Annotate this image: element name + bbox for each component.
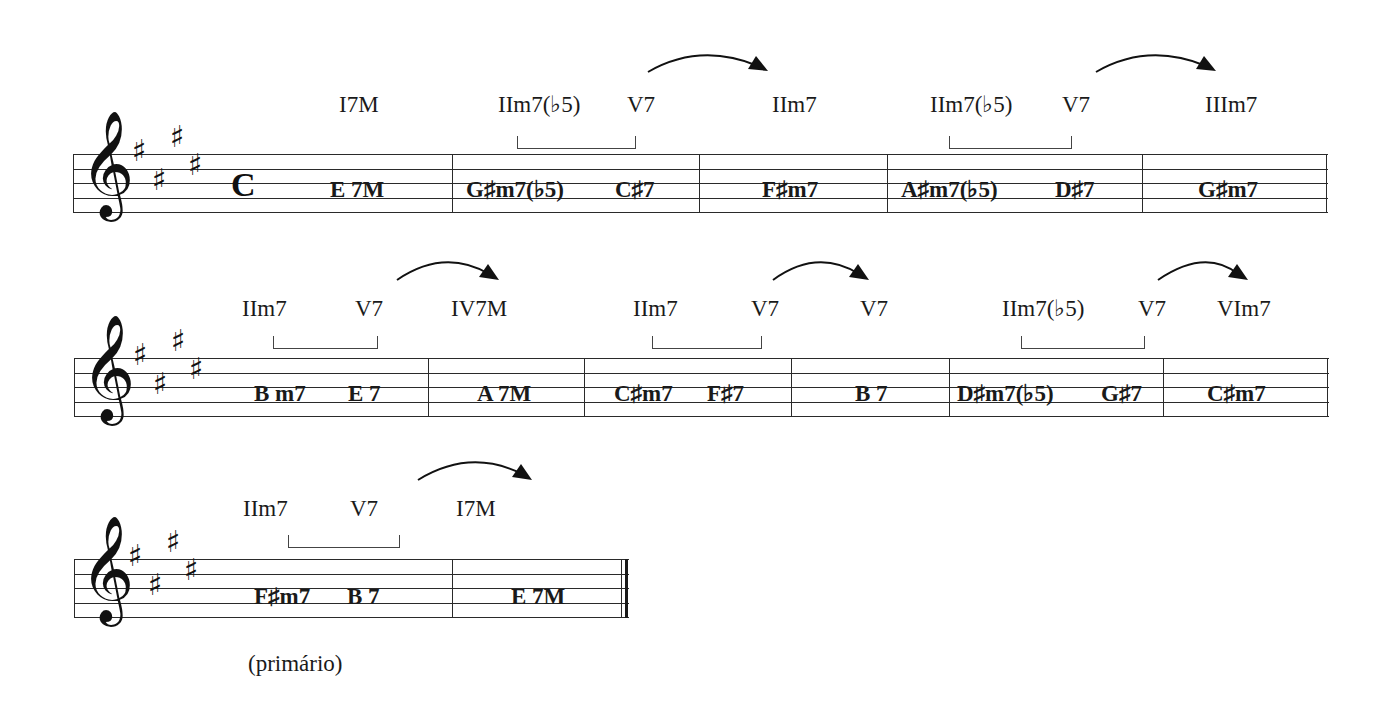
roman-numeral: IIIm7 bbox=[1205, 93, 1257, 116]
staff-line bbox=[74, 416, 1329, 417]
ii-v-bracket bbox=[652, 336, 762, 349]
roman-numeral: IIm7 bbox=[242, 297, 287, 320]
barline bbox=[74, 358, 75, 417]
roman-numeral: IIm7 bbox=[243, 497, 288, 520]
sharp-icon: ♯ bbox=[166, 527, 181, 557]
barline bbox=[73, 154, 74, 213]
chord-symbol: D♯m7(♭5) bbox=[957, 382, 1054, 405]
roman-numeral: IIm7(♭5) bbox=[1002, 297, 1085, 320]
barline bbox=[428, 358, 429, 417]
chord-symbol: A 7M bbox=[477, 382, 531, 405]
roman-numeral: V7 bbox=[1138, 297, 1166, 320]
roman-numeral: V7 bbox=[1062, 93, 1090, 116]
treble-clef-icon: 𝄞 bbox=[80, 118, 134, 210]
chord-symbol: C♯7 bbox=[615, 178, 655, 201]
resolution-arrow-icon bbox=[389, 252, 509, 286]
staff-1 bbox=[73, 154, 1328, 213]
staff-line bbox=[73, 183, 1328, 184]
roman-numeral: V7 bbox=[751, 297, 779, 320]
chord-symbol: D♯7 bbox=[1055, 178, 1095, 201]
sharp-icon: ♯ bbox=[171, 326, 186, 356]
final-barline-thin bbox=[621, 559, 622, 618]
barline bbox=[584, 358, 585, 417]
ii-v-bracket bbox=[949, 136, 1072, 149]
sharp-icon: ♯ bbox=[188, 150, 203, 180]
chord-symbol: E 7M bbox=[330, 178, 384, 201]
barline bbox=[452, 559, 453, 618]
chord-symbol: B 7 bbox=[855, 382, 888, 405]
sharp-icon: ♯ bbox=[128, 541, 143, 571]
roman-numeral: V7 bbox=[350, 497, 378, 520]
barline bbox=[1327, 358, 1328, 417]
sharp-icon: ♯ bbox=[152, 165, 167, 195]
staff-line bbox=[74, 373, 1329, 374]
roman-numeral: VIm7 bbox=[1217, 297, 1271, 320]
common-time-icon: C bbox=[231, 168, 256, 202]
barline bbox=[74, 559, 75, 618]
roman-numeral: I7M bbox=[339, 93, 379, 116]
staff-line bbox=[73, 212, 1328, 213]
chord-symbol: G♯m7 bbox=[1198, 178, 1258, 201]
staff-line bbox=[73, 169, 1328, 170]
roman-numeral: IIm7 bbox=[633, 297, 678, 320]
barline bbox=[791, 358, 792, 417]
chord-symbol: C♯m7 bbox=[1207, 382, 1266, 405]
ii-v-bracket bbox=[273, 336, 378, 349]
sharp-icon: ♯ bbox=[189, 354, 204, 384]
chord-symbol: F♯7 bbox=[707, 382, 744, 405]
resolution-arrow-icon bbox=[640, 48, 780, 78]
resolution-arrow-icon bbox=[410, 452, 540, 486]
staff-line bbox=[73, 198, 1328, 199]
chord-symbol: F♯m7 bbox=[254, 585, 310, 608]
treble-clef-icon: 𝄞 bbox=[80, 523, 134, 615]
barline bbox=[1163, 358, 1164, 417]
chord-symbol: F♯m7 bbox=[762, 178, 818, 201]
barline bbox=[1326, 154, 1327, 213]
roman-numeral: IIm7(♭5) bbox=[498, 93, 581, 116]
roman-numeral: I7M bbox=[456, 497, 496, 520]
chord-symbol: G♯m7(♭5) bbox=[466, 178, 564, 201]
final-barline-thick bbox=[625, 559, 628, 618]
roman-numeral: IV7M bbox=[451, 297, 507, 320]
sharp-icon: ♯ bbox=[133, 340, 148, 370]
resolution-arrow-icon bbox=[1150, 252, 1270, 286]
chord-symbol: C♯m7 bbox=[614, 382, 673, 405]
barline bbox=[887, 154, 888, 213]
barline bbox=[699, 154, 700, 213]
chord-symbol: E 7M bbox=[511, 585, 565, 608]
sharp-icon: ♯ bbox=[153, 369, 168, 399]
staff-line bbox=[74, 559, 629, 560]
barline bbox=[1142, 154, 1143, 213]
resolution-arrow-icon bbox=[765, 252, 885, 286]
treble-clef-icon: 𝄞 bbox=[81, 322, 135, 414]
chord-symbol: E 7 bbox=[348, 382, 381, 405]
sharp-icon: ♯ bbox=[170, 122, 185, 152]
staff-line bbox=[74, 358, 1329, 359]
caption-primario: (primário) bbox=[248, 652, 343, 675]
chord-symbol: G♯7 bbox=[1101, 382, 1142, 405]
barline bbox=[452, 154, 453, 213]
roman-numeral: V7 bbox=[627, 93, 655, 116]
staff-line bbox=[73, 154, 1328, 155]
chord-symbol: B 7 bbox=[347, 585, 380, 608]
resolution-arrow-icon bbox=[1088, 48, 1228, 78]
roman-numeral: V7 bbox=[860, 297, 888, 320]
roman-numeral: IIm7 bbox=[772, 93, 817, 116]
sharp-icon: ♯ bbox=[132, 136, 147, 166]
staff-line bbox=[74, 617, 629, 618]
sharp-icon: ♯ bbox=[148, 570, 163, 600]
ii-v-bracket bbox=[288, 535, 400, 548]
ii-v-bracket bbox=[517, 136, 636, 149]
roman-numeral: V7 bbox=[355, 297, 383, 320]
barline bbox=[949, 358, 950, 417]
roman-numeral: IIm7(♭5) bbox=[930, 93, 1013, 116]
chord-symbol: B m7 bbox=[254, 382, 306, 405]
chord-symbol: A♯m7(♭5) bbox=[901, 178, 998, 201]
sharp-icon: ♯ bbox=[184, 555, 199, 585]
ii-v-bracket bbox=[1021, 336, 1145, 349]
